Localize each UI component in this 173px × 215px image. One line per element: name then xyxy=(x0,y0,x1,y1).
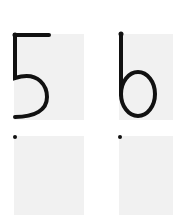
practice-start-dot-6 xyxy=(118,135,122,139)
practice-start-dot-5 xyxy=(13,135,17,139)
digit-strokes xyxy=(0,0,173,215)
digit-5-stroke xyxy=(15,35,49,117)
digit-6-stroke xyxy=(121,35,155,116)
start-dot-6 xyxy=(119,32,124,37)
start-dot-5 xyxy=(13,33,18,38)
